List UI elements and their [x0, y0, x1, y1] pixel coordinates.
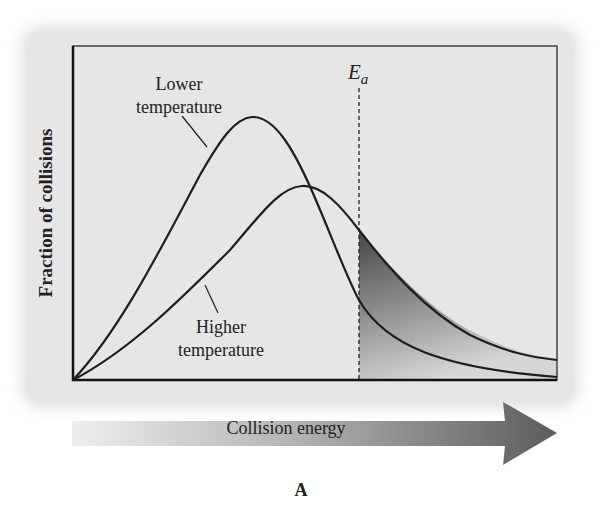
lower-temperature-label-line2: temperature	[128, 96, 230, 119]
y-axis-label: Fraction of collisions	[35, 129, 57, 298]
higher-temperature-leader	[205, 285, 218, 313]
x-axis-label-wrap: Collision energy	[0, 418, 602, 439]
high-energy-shaded-region	[359, 230, 557, 380]
x-axis-label: Collision energy	[226, 418, 345, 438]
higher-temperature-label-line2: temperature	[170, 339, 272, 362]
lower-temperature-label-line1: Lower	[128, 73, 230, 96]
ea-symbol: E	[348, 60, 361, 84]
higher-temperature-label-line1: Higher	[170, 316, 272, 339]
higher-temperature-label: Higher temperature	[170, 316, 272, 362]
activation-energy-label: Ea	[348, 60, 368, 88]
plot-area	[0, 0, 602, 518]
ea-subscript: a	[361, 71, 369, 87]
panel-label: A	[0, 480, 602, 501]
lower-temperature-label: Lower temperature	[128, 73, 230, 119]
lower-temperature-leader	[182, 116, 207, 147]
